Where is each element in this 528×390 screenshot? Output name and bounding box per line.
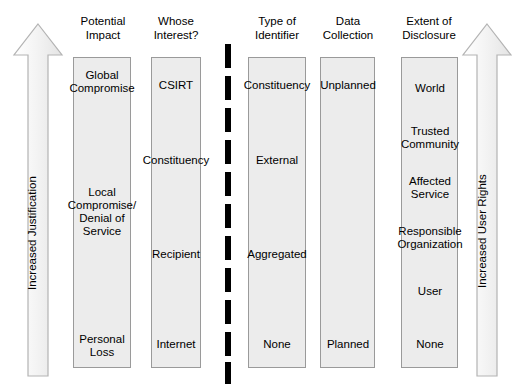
value-csirt: CSIRT [141, 79, 211, 92]
value-global-compromise: Global Compromise [57, 69, 147, 95]
increased-user-rights-label: Increased User Rights [476, 174, 488, 288]
column-header-extent-of-disclosure: Extent of Disclosure [387, 14, 471, 42]
value-affected-service: Affected Service [396, 175, 464, 201]
value-planned: Planned [313, 338, 383, 351]
column-header-potential-impact: Potential Impact [61, 14, 145, 42]
bar-whose-interest [151, 57, 201, 368]
value-none-identifier: None [247, 338, 307, 351]
increased-justification-label: Increased Justification [26, 176, 38, 290]
value-world: World [399, 82, 461, 95]
value-constituency: Constituency [135, 154, 217, 167]
value-local-compromise: Local Compromise/ Denial of Service [52, 186, 152, 238]
value-recipient: Recipient [140, 248, 212, 261]
value-constituency-identifier: Constituency [236, 79, 318, 92]
bar-data-collection [320, 57, 375, 368]
dashed-divider [225, 44, 231, 386]
value-none-disclosure: None [400, 338, 460, 351]
bar-type-of-identifier [248, 57, 306, 368]
value-user: User [402, 285, 458, 298]
column-header-whose-interest: Whose Interest? [135, 14, 217, 42]
value-aggregated: Aggregated [238, 248, 316, 261]
value-personal-loss: Personal Loss [62, 333, 142, 359]
value-trusted-community: Trusted Community [389, 125, 471, 151]
value-internet: Internet [142, 338, 210, 351]
value-responsible-organization: Responsible Organization [386, 225, 474, 251]
value-unplanned: Unplanned [310, 79, 386, 92]
column-header-data-collection: Data Collection [306, 14, 390, 42]
value-external: External [243, 154, 311, 167]
bar-extent-of-disclosure [401, 57, 458, 368]
dimension-matrix-diagram: Increased Justification Increased User R… [0, 0, 528, 390]
